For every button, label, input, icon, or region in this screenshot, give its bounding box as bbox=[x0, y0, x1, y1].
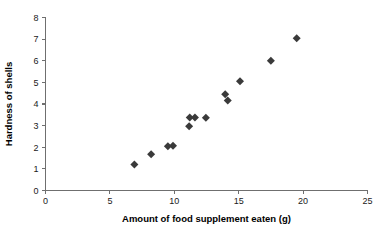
y-axis-title: Hardness of shells bbox=[3, 62, 14, 146]
y-tick-label-8: 8 bbox=[33, 13, 38, 23]
x-tick-label-10: 10 bbox=[169, 196, 179, 206]
data-point bbox=[267, 57, 275, 65]
data-point bbox=[147, 150, 155, 158]
y-tick-label-4: 4 bbox=[33, 99, 38, 109]
scatter-chart: 0123456780510152025Amount of food supple… bbox=[0, 0, 384, 237]
x-tick-label-25: 25 bbox=[362, 196, 372, 206]
y-tick-label-6: 6 bbox=[33, 56, 38, 66]
x-tick-label-15: 15 bbox=[234, 196, 244, 206]
data-point bbox=[185, 122, 193, 130]
chart-canvas: 0123456780510152025Amount of food supple… bbox=[0, 0, 384, 237]
y-tick-label-3: 3 bbox=[33, 121, 38, 131]
data-point bbox=[293, 34, 301, 42]
y-tick-label-2: 2 bbox=[33, 143, 38, 153]
y-tick-label-7: 7 bbox=[33, 34, 38, 44]
data-point bbox=[169, 142, 177, 150]
data-point bbox=[236, 77, 244, 85]
data-point bbox=[191, 114, 199, 122]
x-tick-label-0: 0 bbox=[43, 196, 48, 206]
y-tick-label-1: 1 bbox=[33, 164, 38, 174]
data-point bbox=[202, 114, 210, 122]
y-tick-label-5: 5 bbox=[33, 78, 38, 88]
data-point bbox=[130, 161, 138, 169]
x-axis-title: Amount of food supplement eaten (g) bbox=[122, 213, 291, 224]
x-tick-label-20: 20 bbox=[298, 196, 308, 206]
x-tick-label-5: 5 bbox=[107, 196, 112, 206]
y-tick-label-0: 0 bbox=[33, 186, 38, 196]
